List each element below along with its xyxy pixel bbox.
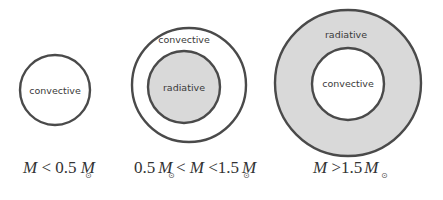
condition-low-mass: M < 0.5 M ⊙ [22, 158, 96, 180]
condition-sun-like: 0.5M ⊙ < M <1.5M ⊙ [134, 158, 257, 180]
star-sun-like: convective radiative [132, 28, 246, 142]
star-high-mass: radiative convective [275, 10, 421, 156]
stellar-structure-diagram: convective convective radiative radiativ… [0, 0, 443, 200]
solar-mass-symbol: ⊙ [168, 171, 175, 180]
solar-mass-symbol: ⊙ [381, 171, 388, 180]
zone-label-radiative: radiative [163, 82, 205, 93]
zone-label-convective: convective [322, 78, 374, 89]
zone-label-convective: convective [158, 34, 210, 45]
zone-label-convective: convective [29, 85, 81, 96]
solar-mass-symbol: ⊙ [243, 171, 250, 180]
zone-label-radiative: radiative [325, 29, 367, 40]
star-low-mass: convective [20, 55, 90, 125]
mass-condition-label: M >1.5M [312, 158, 379, 177]
solar-mass-symbol: ⊙ [85, 171, 92, 180]
condition-high-mass: M >1.5M ⊙ [312, 158, 388, 180]
